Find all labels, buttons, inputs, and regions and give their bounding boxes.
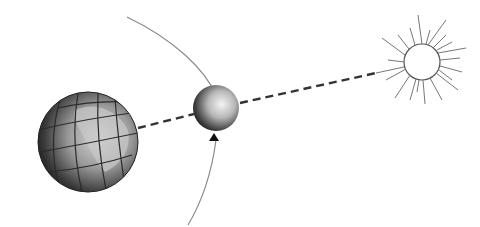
line-of-sight-moon-sun bbox=[240, 73, 376, 103]
diagram-canvas bbox=[0, 0, 480, 227]
eclipse-diagram bbox=[0, 0, 480, 227]
orbit-direction-arrow-icon bbox=[209, 133, 219, 141]
line-of-sight-earth-moon bbox=[138, 114, 194, 128]
moon-sphere-icon bbox=[193, 85, 239, 131]
earth-globe-icon bbox=[38, 92, 140, 192]
sun-icon bbox=[382, 15, 466, 104]
